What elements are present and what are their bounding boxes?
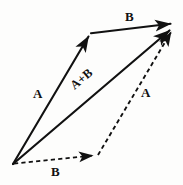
- vector-label-a-right: A: [141, 86, 151, 99]
- vector-label-a-left: A: [33, 87, 43, 100]
- vector-b-top-line: [91, 24, 171, 33]
- vector-label-b-bottom: B: [51, 165, 60, 178]
- vector-a-right-line: [98, 33, 171, 156]
- vector-a-left-line: [13, 37, 89, 165]
- vector-label-b-top: B: [125, 10, 134, 23]
- vector-addition-figure: A B A+B A B: [0, 0, 183, 185]
- vector-diagram-canvas: [0, 0, 183, 185]
- vector-b-bottom-line: [14, 156, 93, 164]
